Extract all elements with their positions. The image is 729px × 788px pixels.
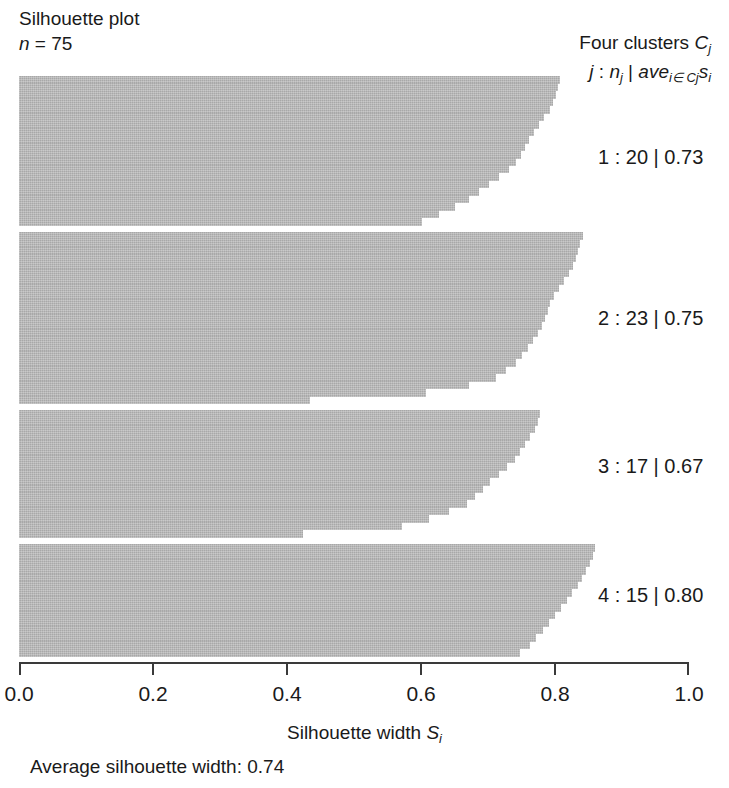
silhouette-bar bbox=[19, 218, 422, 226]
cluster-label-1: 1 : 20 | 0.73 bbox=[598, 146, 703, 169]
silhouette-bars-area bbox=[19, 76, 689, 656]
x-axis bbox=[19, 662, 689, 676]
legend-clusters-text: Four clusters bbox=[579, 32, 694, 53]
plot-title: Silhouette plot bbox=[19, 6, 139, 31]
x-axis-tick-label: 0.2 bbox=[138, 682, 167, 706]
legend-line-clusters: Four clusters Cj bbox=[579, 30, 711, 58]
average-silhouette-note: Average silhouette width: 0.74 bbox=[30, 756, 284, 778]
x-axis-tick-label: 0.6 bbox=[406, 682, 435, 706]
x-axis-title-text: Silhouette width bbox=[287, 722, 426, 743]
sample-size-value: = 75 bbox=[30, 33, 73, 54]
cluster-label-4: 4 : 15 | 0.80 bbox=[598, 584, 703, 607]
silhouette-bar bbox=[19, 530, 303, 538]
silhouette-bar bbox=[19, 396, 310, 404]
x-axis-tick-label: 0.4 bbox=[272, 682, 301, 706]
x-axis-tick bbox=[687, 662, 689, 675]
x-axis-tick-labels: 0.00.20.40.60.81.0 bbox=[19, 682, 689, 708]
x-axis-tick bbox=[19, 662, 21, 675]
cluster-group-2 bbox=[19, 232, 689, 403]
x-axis-tick-label: 1.0 bbox=[674, 682, 703, 706]
x-axis-tick-label: 0.0 bbox=[4, 682, 33, 706]
legend-s-subscript: i bbox=[708, 69, 711, 84]
cluster-group-3 bbox=[19, 410, 689, 537]
x-axis-title-var: S bbox=[426, 722, 439, 743]
silhouette-plot: Silhouette plot n = 75 Four clusters Cj … bbox=[0, 0, 729, 788]
x-axis-tick bbox=[286, 662, 288, 675]
sample-size-var: n bbox=[19, 33, 30, 54]
legend-cluster-var: C bbox=[694, 32, 708, 53]
x-axis-tick-label: 0.8 bbox=[540, 682, 569, 706]
x-axis-tick bbox=[420, 662, 422, 675]
legend-s-var: s bbox=[699, 61, 709, 82]
cluster-label-3: 3 : 17 | 0.67 bbox=[598, 455, 703, 478]
cluster-group-1 bbox=[19, 76, 689, 225]
x-axis-tick bbox=[152, 662, 154, 675]
plot-header: Silhouette plot n = 75 bbox=[19, 6, 139, 57]
cluster-group-4 bbox=[19, 544, 689, 656]
silhouette-bar bbox=[19, 649, 520, 657]
legend-cluster-subscript: j bbox=[708, 41, 711, 56]
x-axis-title-subscript: i bbox=[439, 731, 442, 746]
cluster-label-2: 2 : 23 | 0.75 bbox=[598, 307, 703, 330]
sample-size-label: n = 75 bbox=[19, 31, 139, 56]
x-axis-tick bbox=[554, 662, 556, 675]
x-axis-line bbox=[19, 662, 689, 664]
x-axis-title: Silhouette width Si bbox=[0, 722, 729, 746]
